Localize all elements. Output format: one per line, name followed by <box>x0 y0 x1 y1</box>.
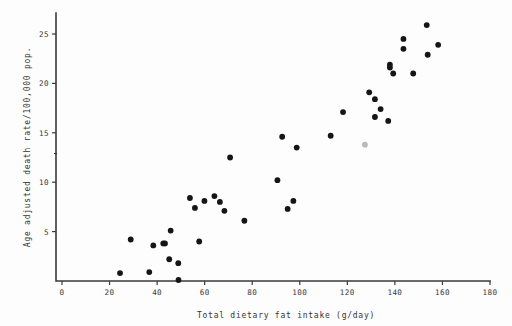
data-point <box>146 269 152 275</box>
data-point <box>378 106 384 112</box>
data-point <box>202 198 208 204</box>
x-tick-label-80: 80 <box>247 288 257 297</box>
y-tick-label-10: 10 <box>39 178 49 187</box>
data-point <box>340 109 346 115</box>
data-point <box>166 256 172 262</box>
data-point <box>294 145 300 151</box>
y-tick-label-25: 25 <box>39 30 49 39</box>
x-tick-label-160: 160 <box>435 288 450 297</box>
axis-spine <box>56 13 490 281</box>
axis-ticks: 020406080100120140160180510152025 <box>39 30 497 297</box>
y-tick-label-15: 15 <box>39 129 49 138</box>
data-point <box>192 205 198 211</box>
axes <box>56 13 490 281</box>
data-point <box>187 195 193 201</box>
data-point <box>372 114 378 120</box>
data-point <box>222 208 228 214</box>
x-axis-title: Total dietary fat intake (g/day) <box>197 311 375 320</box>
data-point <box>227 155 233 161</box>
y-tick-label-20: 20 <box>39 79 49 88</box>
x-tick-label-40: 40 <box>152 288 162 297</box>
data-point <box>390 71 396 77</box>
data-point <box>196 239 202 245</box>
data-point <box>387 65 393 71</box>
data-point <box>372 96 378 102</box>
data-point <box>424 22 430 28</box>
data-point <box>162 241 168 247</box>
data-point <box>168 228 174 234</box>
data-point <box>241 218 247 224</box>
data-point <box>175 260 181 266</box>
x-tick-label-140: 140 <box>387 288 402 297</box>
data-point <box>385 118 391 124</box>
data-point <box>328 133 334 139</box>
data-points <box>117 22 441 283</box>
x-tick-label-60: 60 <box>200 288 210 297</box>
x-tick-label-120: 120 <box>340 288 355 297</box>
y-tick-label-5: 5 <box>44 228 49 237</box>
data-point <box>425 52 431 58</box>
x-tick-label-0: 0 <box>60 288 65 297</box>
data-point <box>117 270 123 276</box>
data-point <box>275 177 281 183</box>
data-point <box>217 199 223 205</box>
data-point <box>366 89 372 95</box>
data-point <box>176 277 182 283</box>
x-tick-label-100: 100 <box>292 288 307 297</box>
x-tick-label-20: 20 <box>105 288 115 297</box>
data-point <box>435 42 441 48</box>
data-point <box>401 36 407 42</box>
data-point <box>401 46 407 52</box>
x-tick-label-180: 180 <box>483 288 498 297</box>
scatter-plot-figure: 020406080100120140160180510152025 Total … <box>0 0 512 326</box>
data-point <box>212 193 218 199</box>
data-point <box>290 198 296 204</box>
plot-canvas: 020406080100120140160180510152025 Total … <box>0 0 512 326</box>
data-point <box>410 71 416 77</box>
y-axis-title: Age adjusted death rate/100,000 pop. <box>23 47 32 247</box>
data-point <box>285 206 291 212</box>
data-point <box>279 134 285 140</box>
data-point <box>362 142 368 148</box>
data-point <box>128 237 134 243</box>
data-point <box>150 243 156 249</box>
